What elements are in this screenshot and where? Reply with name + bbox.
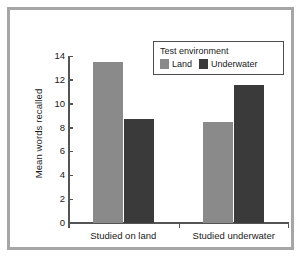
bar-underwater-1 — [234, 85, 264, 223]
chart-legend: Test environment LandUnderwater — [153, 41, 284, 75]
x-axis-tick-mark — [68, 223, 70, 228]
y-axis-tick-label: 0 — [43, 217, 65, 229]
x-axis-tick-mark — [288, 223, 290, 228]
legend-swatch-icon — [199, 59, 208, 69]
bar-land-0 — [93, 62, 123, 223]
legend-entry-underwater: Underwater — [199, 59, 258, 69]
legend-label: Land — [172, 59, 192, 69]
x-axis-tick-mark — [179, 223, 181, 228]
y-axis-tick-label: 6 — [43, 145, 65, 157]
y-axis-tick-label: 10 — [43, 98, 65, 110]
y-axis-tick-label: 8 — [43, 122, 65, 134]
bar-underwater-0 — [124, 119, 154, 223]
legend-label: Underwater — [211, 59, 258, 69]
y-axis-tick-label: 2 — [43, 193, 65, 205]
y-axis-tick-label: 12 — [43, 74, 65, 86]
y-axis-tick-label: 14 — [43, 50, 65, 62]
legend-title: Test environment — [160, 46, 277, 56]
bars-layer — [68, 56, 289, 223]
bar-land-1 — [203, 122, 233, 223]
plot-area: Mean words recalled 02468101214 Studied … — [10, 10, 291, 247]
legend-entries: LandUnderwater — [160, 59, 277, 69]
x-axis-group-label: Studied on land — [68, 230, 179, 241]
x-axis-group-label: Studied underwater — [179, 230, 290, 241]
legend-entry-land: Land — [160, 59, 192, 69]
legend-swatch-icon — [160, 59, 169, 69]
y-axis-tick-label: 4 — [43, 169, 65, 181]
chart-figure-frame: Mean words recalled 02468101214 Studied … — [7, 7, 294, 250]
